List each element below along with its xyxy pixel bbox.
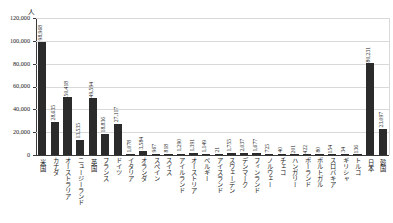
bar[interactable]: [164, 154, 172, 155]
bar-value-label: 1,078: [127, 140, 133, 153]
bar[interactable]: [114, 124, 122, 155]
bar[interactable]: [139, 151, 147, 155]
bar[interactable]: [76, 140, 84, 155]
bar-value-label: 80,231: [366, 47, 372, 62]
category-label-text: オランダ: [140, 157, 147, 181]
x-axis-category-label: 韓国: [376, 157, 389, 175]
bar-value-label: 50,418: [64, 81, 70, 96]
x-axis-category-label: ポーランド: [301, 157, 314, 191]
category-label-text: カナダ: [52, 157, 59, 175]
plot-area: 98,96828,63550,41813,53549,59418,83627,1…: [36, 18, 389, 155]
category-label-text: フィンランド: [253, 157, 260, 193]
bar[interactable]: [177, 154, 185, 155]
bar-value-label: 725: [265, 144, 271, 152]
category-label-text: アイスランド: [216, 157, 223, 193]
category-label-text: 韓国: [379, 159, 386, 171]
category-label-text: 日本: [367, 159, 374, 171]
category-label-text: フランス: [102, 157, 109, 181]
bar[interactable]: [328, 154, 336, 155]
bar-value-label: 34: [341, 147, 347, 153]
x-axis-category-label: ニュージーランド: [74, 157, 87, 209]
category-label-text: トルコ: [354, 157, 361, 175]
x-axis-category-label: スペイン: [149, 157, 162, 185]
chart-title: [0, 1, 393, 8]
bar[interactable]: [265, 154, 273, 155]
bar-chart: 人 120,000100,00080,00060,00040,00020,000…: [0, 0, 393, 223]
bar-value-label: 154: [328, 145, 334, 153]
bar[interactable]: [379, 129, 387, 155]
category-label-text: ポーランド: [304, 157, 311, 187]
category-label-text: イタリア: [127, 157, 134, 181]
bar[interactable]: [126, 154, 134, 155]
bar[interactable]: [89, 98, 97, 155]
bar[interactable]: [152, 154, 160, 155]
x-axis-category-label: スイス: [162, 157, 175, 179]
bar[interactable]: [303, 154, 311, 155]
bar-value-label: 1,391: [190, 139, 196, 152]
gridline: [36, 18, 389, 19]
bar[interactable]: [252, 153, 260, 155]
x-axis-category-label: オーストリア: [187, 157, 200, 197]
bar[interactable]: [366, 63, 374, 155]
category-label-text: アイルランド: [178, 157, 185, 193]
x-axis-category-label: チェコ: [276, 157, 289, 179]
bar[interactable]: [290, 154, 298, 155]
bar-value-label: 13,535: [76, 123, 82, 138]
bar[interactable]: [101, 134, 109, 156]
x-axis-category-label: 日本: [364, 157, 377, 175]
x-axis-category-label: ポルトガル: [313, 157, 326, 191]
bar[interactable]: [38, 42, 46, 155]
category-label-text: 米国: [39, 159, 46, 171]
x-axis-category-label: スロバキア: [326, 157, 339, 191]
bar[interactable]: [278, 154, 286, 155]
bar[interactable]: [341, 154, 349, 155]
bar-value-label: 27,117: [114, 107, 120, 122]
category-label-text: ノルウェー: [266, 157, 273, 187]
category-label-text: ベルギー: [203, 157, 210, 181]
x-axis-category-label: ノルウェー: [263, 157, 276, 191]
category-label-text: オーストラリア: [64, 157, 71, 199]
x-axis-category-label: アイルランド: [175, 157, 188, 197]
bar-value-label: 967: [152, 144, 158, 152]
x-axis-category-label: スウェーデン: [225, 157, 238, 197]
bar-value-label: 201: [291, 145, 297, 153]
bar-value-label: 49,594: [89, 82, 95, 97]
x-axis-category-label: アイスランド: [213, 157, 226, 197]
bar-value-label: 2,037: [240, 139, 246, 152]
y-axis-tick-label: 60,000: [0, 83, 30, 89]
category-label-text: スイス: [165, 157, 172, 175]
y-axis-tick-label: 100,000: [0, 38, 30, 44]
plot-right-border: [389, 18, 390, 155]
x-axis-category-label: オランダ: [137, 157, 150, 185]
x-axis-category-label: ギリシャ: [339, 157, 352, 185]
bar-value-label: 18,836: [101, 117, 107, 132]
bar-value-label: 80: [316, 147, 322, 153]
x-axis-category-label: フランス: [99, 157, 112, 185]
x-axis-category-label: ハンガリー: [288, 157, 301, 191]
bar[interactable]: [353, 154, 361, 155]
bar[interactable]: [240, 153, 248, 155]
y-axis-tick-label: 40,000: [0, 106, 30, 112]
category-label-text: ドイツ: [115, 157, 122, 175]
bar[interactable]: [63, 97, 71, 155]
bar[interactable]: [202, 154, 210, 155]
bar[interactable]: [215, 154, 223, 155]
bar-value-label: 23,097: [379, 112, 385, 127]
bar-value-label: 3,584: [139, 137, 145, 150]
category-label-text: ギリシャ: [342, 157, 349, 181]
bar-value-label: 40: [278, 147, 284, 153]
gridline: [36, 155, 389, 156]
x-axis-category-label: オーストラリア: [61, 157, 74, 203]
category-label-text: オーストリア: [190, 157, 197, 193]
y-axis-tick-label: 20,000: [0, 129, 30, 135]
bar[interactable]: [51, 122, 59, 155]
bar-value-label: 28,635: [51, 105, 57, 120]
bar[interactable]: [189, 153, 197, 155]
category-label-text: ニュージーランド: [77, 157, 84, 205]
bar[interactable]: [315, 154, 323, 155]
bar-value-label: 136: [354, 145, 360, 153]
x-axis-category-label: トルコ: [351, 157, 364, 179]
category-label-text: スロバキア: [329, 157, 336, 187]
bar[interactable]: [227, 153, 235, 155]
category-label-text: 英国: [89, 159, 96, 171]
